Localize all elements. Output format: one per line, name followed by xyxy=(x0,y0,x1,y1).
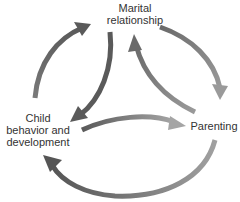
node-parenting-line1: Parenting xyxy=(188,120,240,132)
arrow-marital-to-parenting xyxy=(160,27,228,100)
arrow-parenting-to-marital xyxy=(128,34,195,112)
node-child-line1: Child xyxy=(0,112,76,124)
node-marital-line1: Marital xyxy=(95,2,175,14)
arrow-child-to-marital xyxy=(35,22,91,98)
arrows-layer xyxy=(0,0,240,202)
node-marital-line2: relationship xyxy=(95,14,175,26)
node-child-behavior: Child behavior and development xyxy=(0,112,76,148)
arrow-parenting-to-child xyxy=(43,140,215,196)
node-marital-relationship: Marital relationship xyxy=(95,2,175,26)
node-child-line3: development xyxy=(0,136,76,148)
node-parenting: Parenting xyxy=(188,120,240,132)
node-child-line2: behavior and xyxy=(0,124,76,136)
arrow-marital-to-child xyxy=(70,32,111,122)
arrow-child-to-parenting xyxy=(82,116,186,130)
family-systems-diagram: Marital relationship Child behavior and … xyxy=(0,0,240,202)
